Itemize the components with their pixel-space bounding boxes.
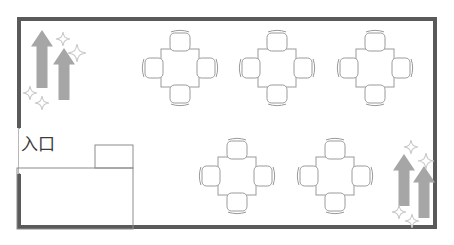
table-surface[interactable] (356, 49, 394, 87)
chair-east (254, 166, 275, 186)
chair-seat (170, 85, 190, 103)
chair-seat (227, 193, 247, 211)
chair-east (197, 58, 218, 78)
chair-north (365, 30, 385, 51)
chair-north (227, 138, 247, 159)
chair-seat (267, 33, 287, 51)
chair-seat (267, 85, 287, 103)
chair-seat (294, 58, 312, 78)
chair-seat (325, 141, 345, 159)
chair-seat (300, 166, 318, 186)
chair-east (392, 58, 413, 78)
wall-bottom (17, 225, 437, 229)
chair-seat (352, 166, 370, 186)
chair-seat (227, 141, 247, 159)
chair-north (170, 30, 190, 51)
table-surface[interactable] (316, 157, 354, 195)
chair-seat (145, 58, 163, 78)
table-surface[interactable] (218, 157, 256, 195)
chair-west (337, 58, 358, 78)
chair-south (365, 85, 385, 106)
chair-seat (197, 58, 215, 78)
floor-plan: 入口 (0, 0, 454, 245)
chair-seat (365, 85, 385, 103)
wall-top (17, 17, 437, 21)
chair-seat (340, 58, 358, 78)
chair-west (239, 58, 260, 78)
chair-seat (254, 166, 272, 186)
chair-seat (170, 33, 190, 51)
chair-south (170, 85, 190, 106)
chair-seat (202, 166, 220, 186)
table-surface[interactable] (161, 49, 199, 87)
wall-left-lower (17, 174, 21, 229)
chair-west (199, 166, 220, 186)
chair-seat (325, 193, 345, 211)
chair-west (142, 58, 163, 78)
wall-right (433, 17, 437, 229)
chair-east (294, 58, 315, 78)
chair-south (267, 85, 287, 106)
chair-east (352, 166, 373, 186)
chair-south (325, 193, 345, 214)
entrance-label: 入口 (21, 134, 55, 154)
chair-south (227, 193, 247, 214)
chair-west (297, 166, 318, 186)
chair-seat (392, 58, 410, 78)
wall-left-upper (17, 17, 21, 128)
chair-north (267, 30, 287, 51)
floor-plan-canvas (0, 0, 454, 245)
chair-seat (365, 33, 385, 51)
chair-seat (242, 58, 260, 78)
table-surface[interactable] (258, 49, 296, 87)
chair-north (325, 138, 345, 159)
